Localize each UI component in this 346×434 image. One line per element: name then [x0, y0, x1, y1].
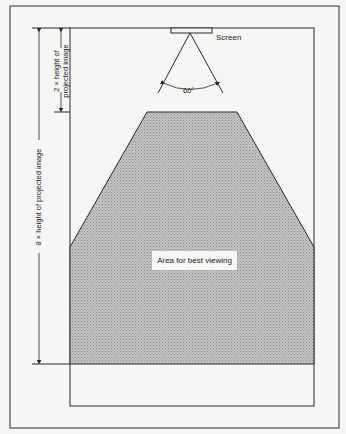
best-viewing-area [70, 112, 314, 364]
angle-label: 60° [183, 86, 194, 95]
screen-label: Screen [216, 33, 241, 42]
dim-label-2x-line1: 2 × height of [52, 31, 61, 111]
dim-label-2x: 2 × height of projected image [52, 31, 70, 111]
dim-label-2x-line2: projected image [61, 31, 70, 111]
dim-label-8x: 8 × height of projected image [34, 137, 44, 257]
screen-icon [171, 28, 212, 33]
area-label: Area for best viewing [152, 251, 237, 270]
